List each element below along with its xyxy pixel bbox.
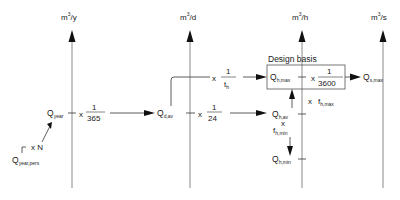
fraction-numerator: 1 — [92, 103, 97, 112]
axis-m3-per-hour: m3/h — [292, 11, 308, 188]
fraction-numerator: 1 — [212, 103, 217, 112]
q-year-pers-node: Qyear,pers — [12, 155, 40, 166]
design-basis-label: Design basis — [268, 54, 317, 64]
times-sign: x — [311, 74, 315, 83]
arrow-up-icon — [299, 30, 306, 42]
arrow-up-icon — [69, 30, 76, 42]
fraction-numerator: 1 — [226, 67, 231, 76]
times-sign: x — [198, 110, 202, 119]
times-sign: x — [308, 97, 312, 106]
arrow-right-icon — [144, 110, 155, 116]
q-h-max-label: Qh,max — [270, 72, 291, 83]
fraction-denominator-24: 24 — [208, 114, 217, 123]
axis-unit-label: m3/h — [292, 11, 308, 22]
q-year-label: Qyear — [47, 108, 64, 119]
q-h-min-label: Qh,min — [272, 154, 291, 165]
times-sign: x — [212, 74, 216, 83]
q-year-pers-label: Qyear,pers — [12, 155, 40, 166]
q-d-av-label: Qd,av — [157, 108, 174, 119]
axis-m3-per-year: m3/y — [61, 11, 77, 188]
axis-m3-per-day: m3/d — [180, 11, 196, 188]
factor-f-h-max: fh,max — [318, 97, 334, 107]
fraction-denominator-th: th — [224, 80, 229, 90]
q-s-max-label: Qs,max — [363, 72, 383, 83]
arrow-to-q-year — [42, 126, 50, 142]
arrow-right-icon — [256, 110, 267, 116]
arrow-right-icon — [350, 74, 361, 81]
fraction-numerator: 1 — [327, 67, 332, 76]
axis-unit-label: m3/y — [61, 11, 77, 22]
times-sign: x — [79, 110, 83, 119]
arrow-down-icon — [287, 146, 293, 156]
q-year-pers-connector — [22, 147, 26, 153]
arrow-up-icon — [380, 30, 387, 42]
axis-m3-per-second: m3/s — [371, 11, 387, 188]
arrow-up-icon — [289, 89, 295, 99]
arrow-up-icon — [187, 30, 194, 42]
arrow-right-icon — [256, 74, 267, 80]
flow-conversion-diagram: m3/y m3/d m3/h m3/s Qyear,pers x N Qyear… — [0, 0, 400, 200]
arrow-head-icon — [47, 122, 52, 129]
fraction-denominator-3600: 3600 — [318, 79, 336, 88]
factor-x-n: x N — [31, 143, 43, 152]
axis-unit-label: m3/s — [371, 11, 387, 22]
axis-unit-label: m3/d — [180, 11, 196, 22]
times-sign: x — [281, 119, 285, 128]
fraction-denominator-365: 365 — [87, 114, 101, 123]
